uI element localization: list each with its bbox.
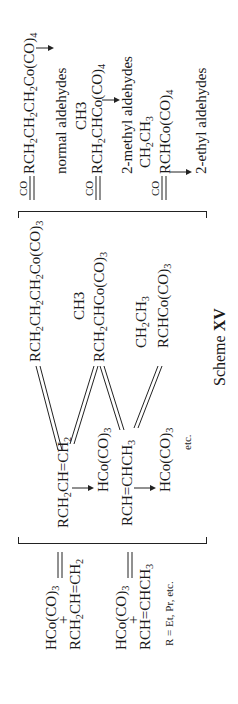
reactant-1-alkene: RCH2CH=CH2: [68, 559, 83, 650]
co-label-1: CO: [18, 181, 29, 196]
product-2-ethyl-aldehydes: 2-ethyl aldehydes: [194, 68, 209, 174]
alkyl-complex-methyl-branch: CH3: [72, 292, 87, 320]
product-2-methyl-aldehydes: 2-methyl aldehydes: [120, 56, 135, 174]
alkyl-complex-methyl: RCH2CHCo(CO)3: [92, 252, 107, 362]
co-label-2: CO: [84, 181, 95, 196]
scheme-title-prefix: Scheme: [211, 335, 228, 386]
co-label-3: CO: [150, 181, 161, 196]
scheme-xv-page: HCo(CO)3 + RCH2CH=CH2 HCo(CO)3 + RCH=CHC…: [0, 0, 238, 704]
acyl-complex-linear: RCH2CH2CH2Co(CO)4: [22, 33, 37, 174]
reactant-2-alkene: RCH=CHCH3: [138, 564, 153, 650]
pi-complex-1-alkene: RCH2CH=CH2: [56, 437, 71, 528]
scheme-title: Scheme XV: [212, 308, 228, 386]
acyl-complex-ethyl: RCHCo(CO)4: [158, 90, 173, 174]
acyl-complex-methyl: RCH2CHCo(CO)4: [90, 64, 105, 174]
left-bracket: [18, 537, 207, 544]
footnote-r-groups: R = Et, Pr, etc.: [164, 581, 175, 646]
alkyl-complex-linear: RCH2CH2CH2Co(CO)3: [28, 221, 43, 362]
pi-complex-2-alkene: RCH=CHCH3: [120, 440, 135, 526]
scheme-title-number: XV: [211, 308, 228, 331]
pi-complex-1-metal: HCo(CO)3: [96, 428, 111, 492]
alkyl-complex-ethyl-branch: CH2CH3: [134, 296, 149, 348]
right-bracket: [18, 211, 207, 218]
acyl-complex-ethyl-branch: CH2CH3: [138, 116, 153, 168]
alkyl-complex-ethyl: RCHCo(CO)3: [156, 264, 171, 348]
acyl-complex-methyl-branch: CH3: [74, 102, 89, 130]
etc-label: etc.: [182, 434, 193, 450]
pi-complex-2-metal: HCo(CO)3: [158, 428, 173, 492]
product-normal-aldehydes: normal aldehydes: [54, 68, 69, 174]
